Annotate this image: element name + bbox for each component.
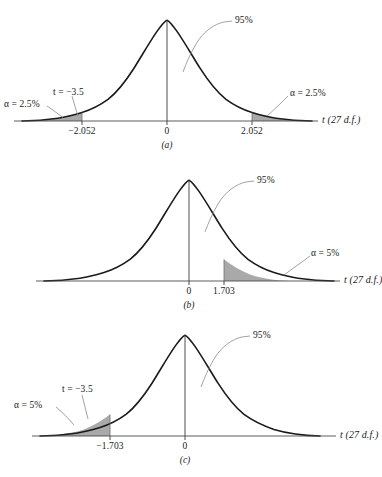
axis-label-a: t (27 d.f.)	[322, 115, 360, 125]
label-alpha-left-c: α = 5%	[14, 401, 42, 411]
ticklabel-zero-b: 0	[187, 287, 192, 297]
leader-alpha-left-c	[56, 407, 74, 425]
ticklabel-neg-1703: −1.703	[96, 442, 123, 452]
label-tstat-a: t = −3.5	[53, 88, 84, 98]
leader-95-percent-b	[205, 182, 246, 232]
panel-b-right-tailed: 95% α = 5% 0 1.703 t (27 d.f.) (b)	[0, 155, 366, 315]
shade-right-tail-b	[224, 259, 290, 281]
label-alpha-left-a: α = 2.5%	[4, 100, 40, 110]
leader-alpha-right-a	[267, 96, 288, 116]
leader-95-percent-c	[201, 337, 242, 387]
label-95-percent-c: 95%	[253, 331, 271, 341]
axis-label-b: t (27 d.f.)	[344, 275, 382, 285]
leader-alpha-left-a	[47, 106, 63, 118]
leader-tstat-c	[82, 395, 88, 419]
axis-label-c: t (27 d.f.)	[340, 430, 378, 440]
leader-95-tick-b	[246, 181, 254, 182]
leader-95-tick-a	[224, 21, 232, 22]
ticklabel-pos-2052: 2.052	[241, 127, 263, 137]
label-alpha-right-a: α = 2.5%	[290, 89, 326, 99]
leader-tstat-a	[72, 96, 78, 116]
label-tstat-c: t = −3.5	[62, 385, 93, 395]
panel-a-two-tailed: 95% α = 2.5% t = −3.5 α = 2.5% −2.052 0 …	[0, 0, 366, 155]
ticklabel-pos-1703: 1.703	[213, 287, 235, 297]
caption-a: (a)	[161, 140, 172, 150]
panel-c-left-tailed: 95% t = −3.5 α = 5% −1.703 0 t (27 d.f.)…	[0, 315, 366, 477]
caption-b: (b)	[183, 300, 194, 310]
leader-alpha-right-b	[284, 256, 310, 275]
label-95-percent-b: 95%	[257, 176, 275, 186]
ticklabel-zero-c: 0	[183, 442, 188, 452]
caption-c: (c)	[180, 455, 191, 465]
panel-b-plot	[0, 155, 366, 315]
leader-95-tick-c	[242, 336, 250, 337]
ticklabel-neg-2052: −2.052	[68, 127, 95, 137]
label-alpha-right-b: α = 5%	[311, 249, 339, 259]
panel-a-plot	[0, 0, 366, 155]
leader-95-percent-a	[183, 22, 224, 72]
ticklabel-zero-a: 0	[165, 127, 170, 137]
panel-c-plot	[0, 315, 366, 477]
label-95-percent-a: 95%	[235, 16, 253, 26]
